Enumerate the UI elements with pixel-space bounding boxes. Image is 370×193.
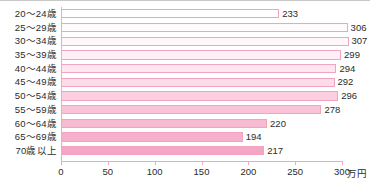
category-label: 40〜44歳 [0,62,57,76]
bar-row: 45〜49歳292 [0,75,370,89]
bar-value-label: 194 [246,130,262,144]
top-divider [0,0,370,1]
bar [61,9,279,18]
category-label: 70歳以上 [0,144,57,158]
bar [61,146,264,155]
x-axis-tick-label: 200 [228,166,268,177]
bar-track: 292 [61,75,370,89]
bar-track: 194 [61,130,370,144]
x-axis-tick [155,161,156,165]
category-label: 20〜24歳 [0,7,57,21]
x-axis-tick [61,161,62,165]
bar [61,37,349,46]
clipped-caption [0,186,200,190]
bar-track: 278 [61,103,370,117]
bar-chart: 20〜24歳23325〜29歳30630〜34歳30735〜39歳29940〜4… [0,0,370,193]
bar-row: 20〜24歳233 [0,7,370,21]
x-axis-tick-label: 100 [135,166,175,177]
bar-value-label: 299 [344,48,360,62]
x-axis-tick-label: 0 [41,166,81,177]
category-label: 30〜34歳 [0,34,57,48]
bar-track: 220 [61,117,370,131]
bar [61,23,348,32]
category-label: 55〜59歳 [0,103,57,117]
x-axis-tick-label: 50 [88,166,128,177]
bar [61,50,341,59]
x-axis-tick [108,161,109,165]
bar-value-label: 296 [341,89,357,103]
category-label: 25〜29歳 [0,21,57,35]
bar-row: 55〜59歳278 [0,103,370,117]
bar-track: 307 [61,34,370,48]
bar-track: 296 [61,89,370,103]
bar-track: 233 [61,7,370,21]
bar [61,64,336,73]
bar-value-label: 278 [324,103,340,117]
bar-row: 60〜64歳220 [0,117,370,131]
x-axis-tick [295,161,296,165]
x-axis-tick-label: 150 [182,166,222,177]
bar-row: 50〜54歳296 [0,89,370,103]
bar-value-label: 292 [338,75,354,89]
bar-value-label: 220 [270,117,286,131]
y-axis-line [61,7,62,162]
bar-row: 30〜34歳307 [0,34,370,48]
bar-track: 299 [61,48,370,62]
x-axis-tick [248,161,249,165]
bar-track: 217 [61,144,370,158]
bar-value-label: 233 [282,7,298,21]
x-axis-tick [342,161,343,165]
bar-value-label: 217 [267,144,283,158]
bar [61,105,321,114]
bar-row: 70歳以上217 [0,144,370,158]
x-axis-tick [202,161,203,165]
bar [61,91,338,100]
bar-value-label: 306 [351,21,367,35]
category-label: 35〜39歳 [0,48,57,62]
plot-area: 20〜24歳23325〜29歳30630〜34歳30735〜39歳29940〜4… [0,7,370,160]
x-axis-unit-label: 万円 [347,166,367,180]
bar-row: 25〜29歳306 [0,21,370,35]
bar-track: 306 [61,21,370,35]
bar-value-label: 294 [339,62,355,76]
category-label: 50〜54歳 [0,89,57,103]
category-label: 60〜64歳 [0,117,57,131]
category-label: 65〜69歳 [0,130,57,144]
bar [61,132,243,141]
bar-row: 65〜69歳194 [0,130,370,144]
bar-value-label: 307 [352,34,368,48]
bar [61,78,335,87]
bar [61,119,267,128]
bar-track: 294 [61,62,370,76]
bar-row: 35〜39歳299 [0,48,370,62]
bar-row: 40〜44歳294 [0,62,370,76]
category-label: 45〜49歳 [0,75,57,89]
x-axis-tick-label: 250 [275,166,315,177]
